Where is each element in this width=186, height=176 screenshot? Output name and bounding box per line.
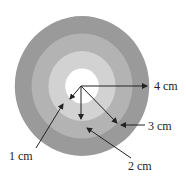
label-4cm: 4 cm — [154, 79, 178, 93]
label-3cm: 3 cm — [148, 119, 172, 133]
label-2cm: 2 cm — [128, 159, 152, 173]
concentric-rings-diagram: 4 cm 3 cm 2 cm 1 cm — [0, 0, 186, 176]
label-1cm: 1 cm — [9, 149, 33, 163]
